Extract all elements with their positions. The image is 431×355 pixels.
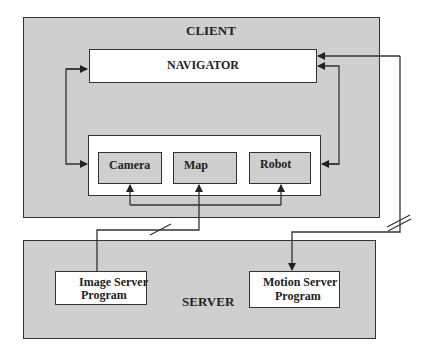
- camera-label: Camera: [109, 158, 150, 173]
- motion-server-box: Motion Server Program: [249, 271, 340, 308]
- camera-module: Camera: [98, 152, 162, 184]
- map-module: Map: [173, 152, 237, 184]
- motion-server-label-line1: Motion Server: [263, 275, 337, 290]
- server-title: SERVER: [182, 294, 234, 310]
- image-server-label-line2: Program: [81, 288, 127, 303]
- image-server-box: Image Server Program: [55, 271, 147, 305]
- robot-label: Robot: [260, 157, 291, 172]
- map-label: Map: [184, 158, 208, 173]
- navigator-label: NAVIGATOR: [167, 58, 239, 73]
- robot-module: Robot: [249, 152, 311, 184]
- client-title: CLIENT: [186, 23, 236, 39]
- navigator-box: NAVIGATOR: [89, 49, 317, 83]
- motion-server-label-line2: Program: [275, 289, 321, 304]
